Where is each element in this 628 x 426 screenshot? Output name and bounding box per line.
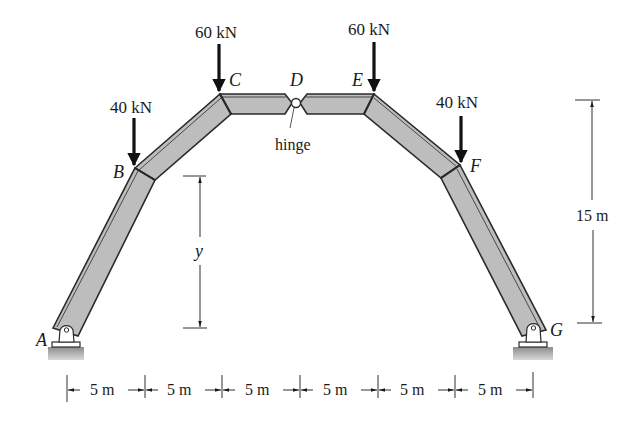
dimension-height-label: 15 m <box>576 207 609 224</box>
span-label-1: 5 m <box>90 381 115 398</box>
node-label-d: D <box>289 70 303 90</box>
dimension-horizontal <box>67 372 533 402</box>
load-label-e: 60 kN <box>348 20 390 39</box>
load-label-c: 60 kN <box>195 23 237 42</box>
hinge-d <box>290 99 301 129</box>
node-label-b: B <box>113 162 124 182</box>
span-label-3: 5 m <box>245 381 270 398</box>
span-label-5: 5 m <box>400 381 425 398</box>
load-label-b: 40 kN <box>110 98 152 117</box>
hinge-label: hinge <box>275 136 311 154</box>
member-fg <box>441 165 546 336</box>
frame-members <box>53 94 546 336</box>
node-label-f: F <box>469 156 482 176</box>
node-label-g: G <box>550 320 563 340</box>
node-label-e: E <box>351 70 363 90</box>
node-label-c: C <box>229 70 242 90</box>
span-label-4: 5 m <box>323 381 348 398</box>
span-label-2: 5 m <box>167 381 192 398</box>
dimension-y-label: y <box>193 241 203 261</box>
arch-frame-diagram: 40 kN 60 kN 60 kN 40 kN A B C D E F G hi… <box>0 0 628 426</box>
node-label-a: A <box>35 330 48 350</box>
member-ab <box>53 168 155 336</box>
span-label-6: 5 m <box>478 381 503 398</box>
load-label-f: 40 kN <box>436 93 478 112</box>
